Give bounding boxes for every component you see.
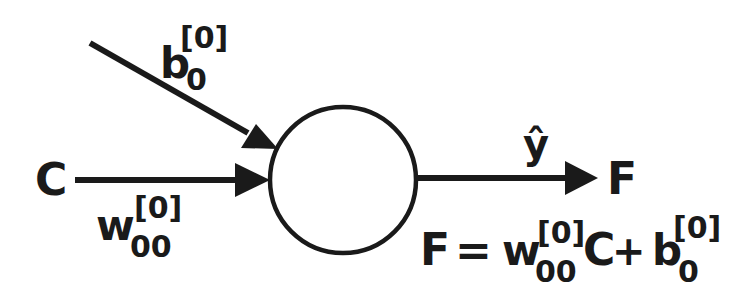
input-label: C [35, 154, 67, 205]
equation: F = w 00 [0] C + b 0 [0] [420, 210, 721, 289]
bias-label: b 0 [0] [160, 20, 228, 97]
equation-input: C [583, 224, 615, 275]
neuron-node [270, 107, 416, 253]
weight-sup: [0] [134, 190, 182, 225]
output-label: F [607, 153, 637, 204]
equation-w-sub: 00 [535, 254, 577, 289]
equation-w-sup: [0] [537, 215, 585, 250]
output-arrow [416, 161, 598, 195]
bias-sub: 0 [186, 62, 207, 97]
equation-plus: + [612, 228, 646, 274]
weight-label: w 00 [0] [96, 190, 182, 264]
equation-b-sub: 0 [678, 254, 699, 289]
weight-base: w [96, 201, 135, 250]
prediction-label: ŷ [523, 121, 549, 167]
perceptron-diagram: b 0 [0] C w 00 [0] ŷ F F = w 00 [0] C + … [0, 0, 747, 297]
equation-equals: = [455, 224, 492, 275]
equation-b-sup: [0] [673, 210, 721, 245]
bias-sup: [0] [180, 20, 228, 55]
weight-sub: 00 [130, 229, 172, 264]
equation-lhs: F [420, 224, 450, 275]
